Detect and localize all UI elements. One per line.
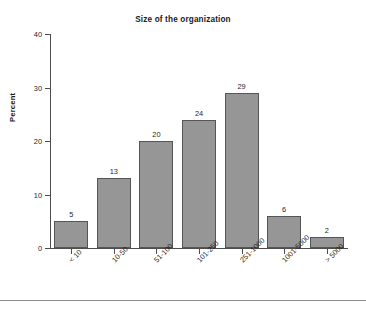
y-axis-tick-label: 40	[2, 30, 42, 39]
y-axis-tick	[45, 141, 50, 142]
figure-canvas: Size of the organization Percent 0102030…	[0, 0, 366, 309]
bar	[225, 93, 259, 248]
bottom-divider	[0, 300, 366, 301]
y-axis-title: Percent	[8, 93, 17, 122]
y-axis-tick-label: 20	[2, 137, 42, 146]
chart-title: Size of the organization	[0, 15, 366, 24]
y-axis-tick-label: 30	[2, 84, 42, 93]
bar-value-label: 13	[94, 167, 134, 176]
bar-value-label: 29	[222, 82, 262, 91]
y-axis-tick	[45, 88, 50, 89]
bar-value-label: 6	[264, 205, 304, 214]
y-axis-tick-label: 0	[2, 244, 42, 253]
y-axis-tick-label: 10	[2, 191, 42, 200]
x-axis-category-label: < 10	[67, 248, 84, 265]
bar	[182, 120, 216, 248]
bar	[54, 221, 88, 248]
bar	[139, 141, 173, 248]
y-axis-tick	[45, 248, 50, 249]
bar-value-label: 5	[51, 210, 91, 219]
bar-value-label: 20	[136, 130, 176, 139]
y-axis-tick	[45, 34, 50, 35]
bar-value-label: 2	[307, 226, 347, 235]
bar-value-label: 24	[179, 109, 219, 118]
y-axis-tick	[45, 195, 50, 196]
bar	[97, 178, 131, 248]
